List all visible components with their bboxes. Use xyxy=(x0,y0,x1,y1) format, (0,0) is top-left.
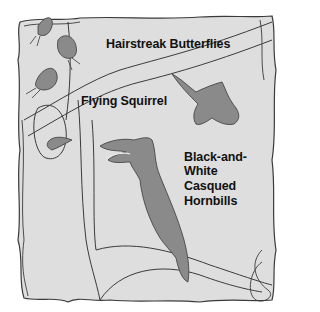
label-hornbill-line1: Black-and- xyxy=(184,150,247,165)
label-flying-squirrel: Flying Squirrel xyxy=(81,94,167,109)
label-hornbill-line3: Casqued xyxy=(184,179,236,194)
label-hairstreak-butterflies: Hairstreak Butterflies xyxy=(106,37,230,52)
label-hornbill-line2: White xyxy=(184,164,218,179)
label-hornbill-line4: Hornbills xyxy=(184,194,237,209)
